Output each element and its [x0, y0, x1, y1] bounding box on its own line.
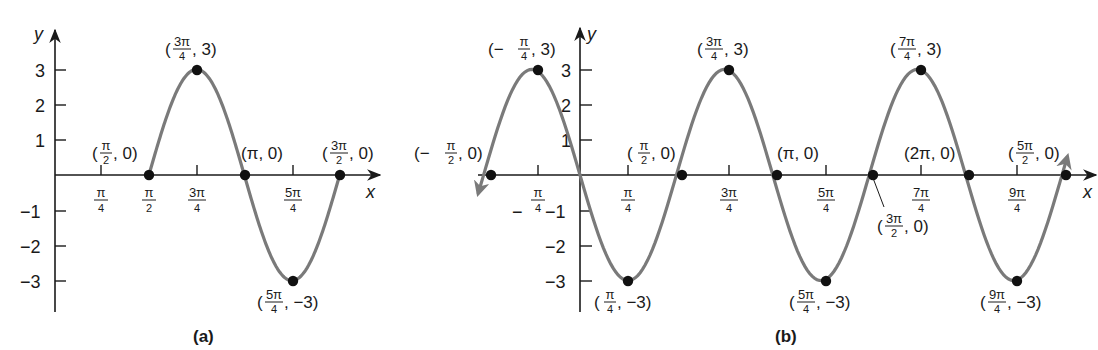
svg-text:4: 4	[194, 202, 200, 214]
y-tick-label: −3	[545, 272, 566, 292]
x-tick-label-3pi-over-4: 3π 4	[720, 185, 738, 214]
svg-text:(: (	[789, 293, 795, 312]
x-tick-label-5pi-over-4: 5π 4	[817, 185, 835, 214]
svg-text:, −3): , −3)	[284, 293, 319, 312]
svg-text:(: (	[890, 40, 896, 59]
point-label-pi-over-2-0: ( π 2 , 0)	[92, 138, 138, 166]
svg-text:7π: 7π	[899, 34, 915, 49]
x-tick-label-7pi-over-4: 7π 4	[912, 185, 930, 214]
svg-text:3π: 3π	[721, 185, 737, 200]
y-tick-label: −2	[545, 237, 566, 257]
svg-text:, 0): , 0)	[651, 144, 676, 163]
point-label-neg-pi-over-2-0: (− π 2 , 0)	[414, 138, 483, 166]
svg-text:4: 4	[98, 202, 104, 214]
caption-a: (a)	[193, 327, 214, 346]
y-tick-label: −2	[20, 237, 41, 257]
svg-text:π: π	[97, 185, 106, 200]
svg-text:2: 2	[448, 154, 454, 166]
y-axis-label-b: y	[585, 24, 597, 44]
y-axis-label-a: y	[32, 24, 44, 44]
caption-b: (b)	[775, 327, 797, 346]
point-label-7pi-over-4-3: ( 7π 4 , 3)	[890, 34, 942, 62]
svg-text:π: π	[447, 138, 456, 153]
y-tick-label: −1	[20, 202, 41, 222]
svg-text:π: π	[534, 185, 543, 200]
point-label-3pi-over-2-0: ( 3π 2 , 0)	[877, 211, 929, 239]
svg-text:(π, 0): (π, 0)	[777, 144, 819, 163]
svg-text:π: π	[102, 138, 111, 153]
point-label-2pi-0: (2π, 0)	[904, 144, 955, 163]
svg-text:π: π	[145, 185, 154, 200]
svg-text:(: (	[322, 144, 328, 163]
point-label-5pi-over-4-m3: ( 5π 4 , −3)	[257, 287, 319, 315]
svg-text:, 0): , 0)	[1035, 144, 1060, 163]
svg-text:4: 4	[179, 50, 185, 62]
x-tick-label-5pi-over-4: 5π 4	[284, 185, 302, 214]
point-label-3pi-over-2-0: ( 3π 2 , 0)	[322, 138, 374, 166]
svg-text:4: 4	[726, 202, 732, 214]
y-tick-label: −3	[20, 272, 41, 292]
svg-text:4: 4	[271, 303, 277, 315]
svg-text:5π: 5π	[818, 185, 834, 200]
sine-graph-figure: y x 3 2 1 −1 −2 −3 π 4 π	[0, 0, 1098, 350]
svg-text:4: 4	[290, 202, 296, 214]
point-label-neg-pi-over-4-3: (− π 4 , 3)	[488, 34, 556, 62]
svg-text:, 0): , 0)	[113, 144, 138, 163]
svg-text:4: 4	[607, 303, 613, 315]
svg-text:, 0): , 0)	[458, 144, 483, 163]
svg-text:π: π	[520, 34, 529, 49]
y-tick-label: 3	[35, 61, 45, 81]
panel-b: y x 3 2 1 −1 −2 −3 − π 4	[414, 24, 1096, 346]
svg-text:, −3): , −3)	[816, 293, 851, 312]
x-tick-label-pi-over-2: π 2	[142, 185, 156, 214]
svg-text:4: 4	[994, 303, 1000, 315]
svg-text:2: 2	[1022, 154, 1028, 166]
svg-text:7π: 7π	[913, 185, 929, 200]
svg-text:2: 2	[103, 154, 109, 166]
svg-text:(−: (−	[488, 40, 504, 59]
x-tick-label-pi-over-4: π 4	[94, 185, 108, 214]
svg-text:2: 2	[641, 154, 647, 166]
svg-text:(: (	[165, 40, 171, 59]
svg-text:(: (	[697, 40, 703, 59]
svg-text:(: (	[92, 144, 98, 163]
y-tick-label: −1	[545, 202, 566, 222]
point-label-pi-0: (π, 0)	[241, 144, 283, 163]
svg-text:(: (	[257, 293, 263, 312]
svg-text:2: 2	[336, 154, 342, 166]
svg-text:3π: 3π	[886, 211, 902, 226]
x-tick-label-3pi-over-4: 3π 4	[188, 185, 206, 214]
x-axis-label-a: x	[365, 182, 376, 202]
svg-text:5π: 5π	[266, 287, 282, 302]
x-tick-label-9pi-over-4: 9π 4	[1008, 185, 1026, 214]
svg-text:π: π	[640, 138, 649, 153]
svg-text:4: 4	[1014, 202, 1020, 214]
y-tick-label: 2	[35, 96, 45, 116]
svg-text:4: 4	[711, 50, 717, 62]
svg-text:(π, 0): (π, 0)	[241, 144, 283, 163]
svg-text:π: π	[624, 185, 633, 200]
svg-text:9π: 9π	[1009, 185, 1025, 200]
svg-text:(−: (−	[414, 144, 430, 163]
svg-text:2: 2	[146, 202, 152, 214]
point-label-pi-over-4-m3: ( π 4 , −3)	[594, 287, 652, 315]
svg-text:(: (	[594, 293, 600, 312]
svg-text:3π: 3π	[331, 138, 347, 153]
point-label-5pi-over-2-0: ( 5π 2 , 0)	[1008, 138, 1060, 166]
svg-text:5π: 5π	[285, 185, 301, 200]
y-tick-label: 1	[35, 131, 45, 151]
point-label-9pi-over-4-m3: ( 9π 4 , −3)	[980, 287, 1042, 315]
x-axis-label-b: x	[1082, 182, 1093, 202]
svg-text:(: (	[627, 144, 633, 163]
svg-text:5π: 5π	[798, 287, 814, 302]
svg-text:(2π, 0): (2π, 0)	[904, 144, 955, 163]
svg-text:, 0): , 0)	[349, 144, 374, 163]
leader-line-3pi-over-2	[873, 178, 884, 207]
y-tick-label: 2	[561, 96, 571, 116]
svg-text:3π: 3π	[174, 34, 190, 49]
svg-text:4: 4	[823, 202, 829, 214]
svg-text:4: 4	[521, 50, 527, 62]
svg-text:(: (	[1008, 144, 1014, 163]
svg-text:3π: 3π	[189, 185, 205, 200]
svg-text:9π: 9π	[989, 287, 1005, 302]
